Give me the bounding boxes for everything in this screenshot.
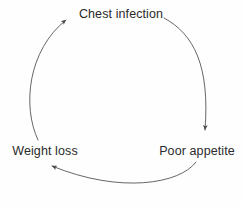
cycle-diagram: Chest infection Poor appetite Weight los… [0,0,242,206]
node-label-poor-appetite: Poor appetite [159,145,235,158]
edge-weight-to-chest [30,20,66,140]
node-label-weight-loss: Weight loss [12,145,77,158]
node-label-chest-infection: Chest infection [79,8,163,21]
edge-appetite-to-weight [52,162,196,183]
cycle-arcs-svg [0,0,242,206]
edge-chest-to-appetite [164,18,206,130]
